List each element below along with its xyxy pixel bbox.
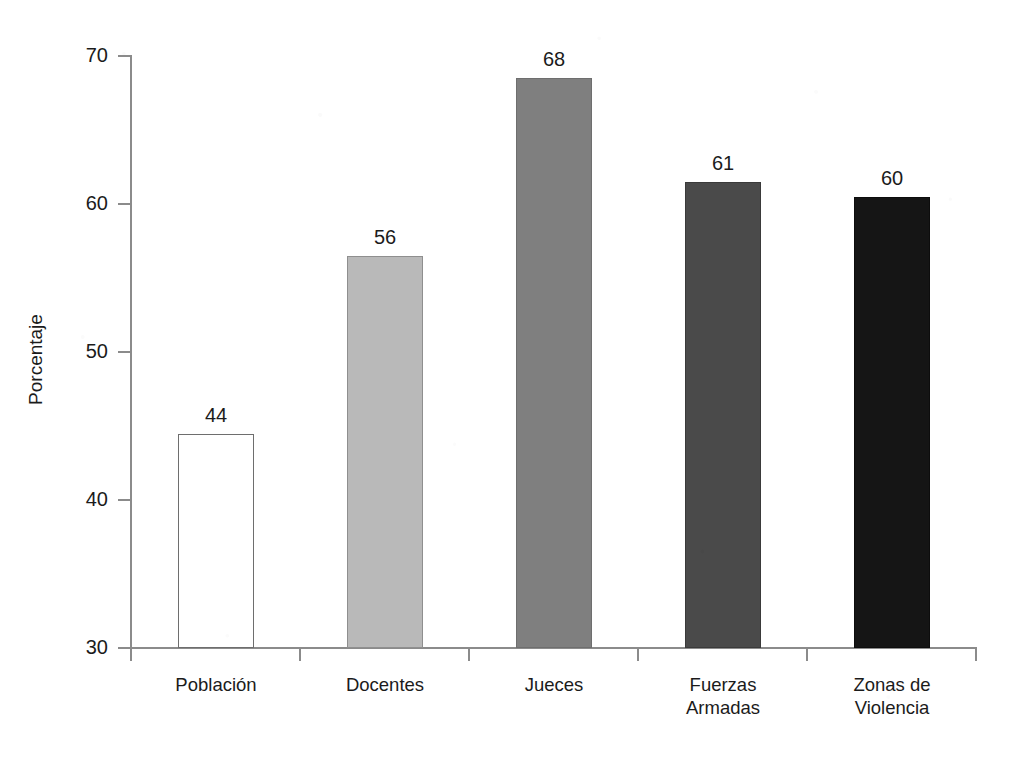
y-tick-label-70-wrap: 70 [48,45,108,65]
x-label-poblacion: Población [149,673,283,696]
x-label-docentes: Docentes [318,673,452,696]
x-tick-1 [299,647,301,661]
x-label-jueces: Jueces [487,673,621,696]
x-label-fuerzas-armadas-line2: Armadas [656,696,790,719]
x-label-zonas-de-violencia: Zonas de Violencia [825,673,959,719]
y-tick-40 [118,499,131,501]
x-tick-4 [806,647,808,661]
y-tick-label-50: 50 [56,341,108,361]
bar-jueces [516,78,592,648]
y-tick-label-50-wrap: 50 [48,341,108,361]
bar-value-0: 44 [178,405,254,425]
x-tick-3 [637,647,639,661]
y-tick-label-40-wrap: 40 [48,489,108,509]
x-label-zonas-de-violencia-line1: Zonas de [825,673,959,696]
y-tick-label-30: 30 [56,637,108,657]
x-tick-0 [130,647,132,661]
y-tick-label-30-wrap: 30 [48,637,108,657]
x-label-poblacion-line1: Población [149,673,283,696]
y-axis-title: Porcentaje [26,280,45,440]
y-tick-50 [118,351,131,353]
y-tick-70 [118,55,131,57]
bar-value-2: 68 [516,49,592,69]
y-tick-label-70: 70 [56,45,108,65]
bar-docentes [347,256,423,648]
y-tick-label-40: 40 [56,489,108,509]
x-label-docentes-line1: Docentes [318,673,452,696]
x-label-zonas-de-violencia-line2: Violencia [825,696,959,719]
bar-fuerzas-armadas [685,182,761,648]
bar-poblacion [178,434,254,648]
bar-value-3: 61 [685,153,761,173]
bar-zonas-de-violencia [854,197,930,648]
x-label-fuerzas-armadas-line1: Fuerzas [656,673,790,696]
y-tick-label-60: 60 [56,193,108,213]
y-tick-label-60-wrap: 60 [48,193,108,213]
y-tick-60 [118,203,131,205]
bar-value-1: 56 [347,227,423,247]
x-label-jueces-line1: Jueces [487,673,621,696]
x-tick-2 [468,647,470,661]
x-label-fuerzas-armadas: Fuerzas Armadas [656,673,790,719]
bar-value-4: 60 [854,168,930,188]
x-tick-5 [975,647,977,661]
bar-chart: Porcentaje 70 60 50 40 30 44 Población 5… [0,0,1033,766]
